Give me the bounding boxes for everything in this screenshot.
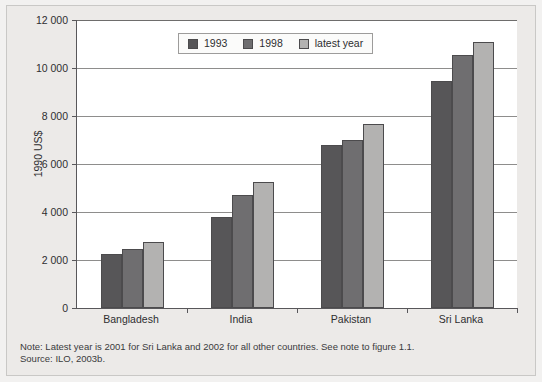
footnote-source: Source: ILO, 2003b. [20,353,520,365]
legend-label: 1993 [204,38,227,49]
figure-container: 1990 US$ 02 0004 0006 0008 00010 00012 0… [0,0,542,382]
x-axis-category-label: Sri Lanka [406,313,516,325]
y-axis-tick [72,212,77,213]
bar [253,182,274,308]
y-axis-tick-label: 6 000 [42,159,68,169]
bar [363,124,384,308]
x-axis-category-labels: BangladeshIndiaPakistanSri Lanka [76,313,516,333]
y-axis-tick [72,308,77,309]
bar [122,249,143,308]
plot-area [76,20,517,309]
legend-item: 1993 [188,38,227,49]
legend-label: 1998 [259,38,282,49]
y-axis-tick [72,116,77,117]
x-axis-category-label: Pakistan [296,313,406,325]
y-axis-tick [72,20,77,21]
legend-swatch-icon [243,39,253,49]
y-axis-tick [72,164,77,165]
footnote-note: Note: Latest year is 2001 for Sri Lanka … [20,341,520,353]
y-axis-tick-label: 12 000 [36,15,68,25]
bar [232,195,253,308]
legend-swatch-icon [188,39,198,49]
bar [431,81,452,308]
y-axis-tick [72,68,77,69]
y-axis-tick-labels: 02 0004 0006 0008 00010 00012 000 [0,0,68,382]
chart-legend: 19931998latest year [178,33,373,54]
bar [143,242,164,308]
y-axis-tick-label: 10 000 [36,63,68,73]
x-axis-category-label: India [186,313,296,325]
footnote-block: Note: Latest year is 2001 for Sri Lanka … [20,341,520,365]
bar-group [211,20,274,308]
bar [452,55,473,308]
legend-item: 1998 [243,38,282,49]
bar [321,145,342,308]
bar-group [321,20,384,308]
bar [342,140,363,308]
bar-group [431,20,494,308]
legend-swatch-icon [299,39,309,49]
bar [211,217,232,308]
y-axis-tick-label: 8 000 [42,111,68,121]
y-axis-tick-label: 0 [62,303,68,313]
bar [101,254,122,308]
y-axis-tick-label: 2 000 [42,255,68,265]
y-axis-tick [72,260,77,261]
bar-group [101,20,164,308]
legend-item: latest year [299,38,363,49]
y-axis-tick-label: 4 000 [42,207,68,217]
legend-label: latest year [315,38,363,49]
x-axis-category-label: Bangladesh [76,313,186,325]
x-axis-tick [517,308,518,313]
bar [473,42,494,308]
